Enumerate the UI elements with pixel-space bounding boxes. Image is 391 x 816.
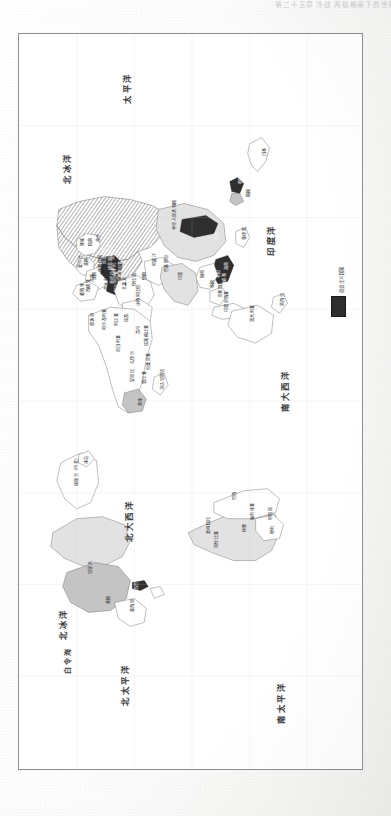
- legend-swatch-socialist: [331, 296, 346, 317]
- running-head-text: 第二十五章 冷战 两极格局下的世界: [275, 0, 391, 9]
- map-legend: 社会主义国家: [326, 262, 354, 328]
- scanned-page: 第二十五章 冷战 两极格局下的世界: [0, 0, 391, 816]
- map-canvas: 北冰洋 太平洋 印度洋 南大西洋 北大西洋 北冰洋 北太平洋 南太平洋 白令海 …: [19, 34, 362, 769]
- legend-label-socialist: 社会主义国家: [338, 266, 344, 293]
- running-head: 第二十五章 冷战 两极格局下的世界: [196, 0, 391, 11]
- map-figure-frame: 北冰洋 太平洋 印度洋 南大西洋 北大西洋 北冰洋 北太平洋 南太平洋 白令海 …: [18, 33, 363, 770]
- world-map-svg: [19, 34, 362, 769]
